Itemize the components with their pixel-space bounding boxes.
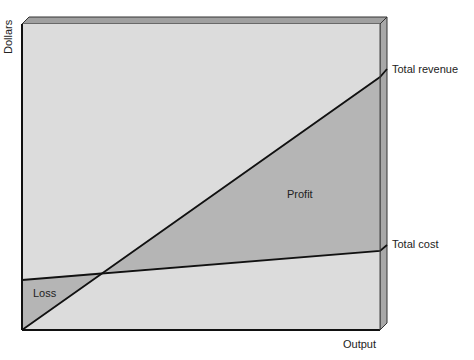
- y-axis-label: Dollars: [2, 20, 14, 54]
- total-revenue-label: Total revenue: [392, 63, 458, 75]
- x-axis-label: Output: [343, 338, 376, 350]
- loss-label: Loss: [33, 287, 56, 299]
- total-cost-label: Total cost: [392, 238, 438, 250]
- profit-label: Profit: [287, 188, 313, 200]
- box-top-face: [22, 17, 387, 24]
- break-even-diagram: [0, 0, 474, 360]
- box-side-face: [380, 17, 387, 330]
